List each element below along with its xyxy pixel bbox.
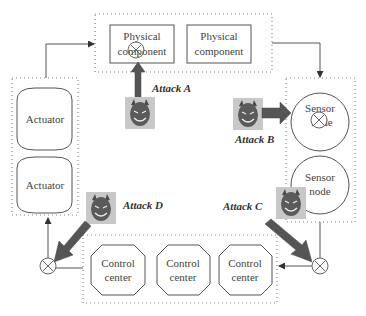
physical-component-1: Physical component [110,25,174,63]
sensor-node-1: Sensor node [291,93,349,151]
svg-text:center: center [232,271,259,283]
physical-process-group: Physical component Physical component [95,14,272,72]
summing-junction-right-icon [312,258,328,274]
svg-text:component: component [195,45,244,57]
actuator-1: Actuator [17,88,72,150]
compromised-x-icon [311,112,327,128]
control-center-group: Control center Control center Control ce… [83,235,277,303]
svg-text:Actuator: Actuator [26,179,65,191]
devil-icon [276,187,306,219]
svg-text:node: node [309,185,331,197]
svg-text:Control: Control [166,257,200,269]
svg-text:Control: Control [101,257,135,269]
svg-text:center: center [170,271,197,283]
svg-text:Physical: Physical [123,30,160,42]
svg-text:Attack B: Attack B [234,133,274,145]
summing-junction-left-icon [40,258,56,274]
physical-component-2: Physical component [187,25,251,63]
control-center-2: Control center [157,245,210,295]
svg-text:Attack D: Attack D [122,199,163,211]
devil-icon [86,192,116,224]
svg-text:center: center [105,271,132,283]
control-center-1: Control center [91,245,145,295]
svg-text:Actuator: Actuator [26,113,65,125]
cps-attack-diagram: Physical component Physical component Ac… [0,0,366,316]
svg-text:Sensor: Sensor [305,171,335,183]
actuator-2: Actuator [17,157,72,213]
devil-icon [233,98,263,130]
svg-text:Physical: Physical [200,30,237,42]
control-center-3: Control center [219,245,272,295]
svg-text:Attack A: Attack A [151,82,191,94]
svg-text:Attack C: Attack C [222,200,263,212]
devil-icon [125,97,155,129]
attack-b: Attack B [233,98,291,145]
svg-text:Control: Control [228,257,262,269]
actuator-group: Actuator Actuator [12,78,78,215]
